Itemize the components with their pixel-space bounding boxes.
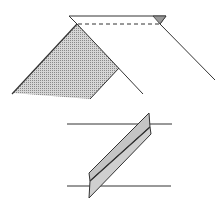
strip-fold-line bbox=[90, 127, 150, 181]
far-right-edge-line bbox=[160, 24, 215, 80]
top-flap-outline bbox=[69, 16, 166, 24]
diagram-svg bbox=[0, 0, 222, 210]
folded-strip-figure bbox=[67, 113, 172, 198]
flap-corner-triangle bbox=[153, 16, 166, 24]
strip-upper-face bbox=[89, 113, 150, 181]
strip-lower-face bbox=[89, 127, 151, 198]
diagram-canvas bbox=[0, 0, 222, 210]
folded-sheet-figure bbox=[12, 16, 215, 99]
